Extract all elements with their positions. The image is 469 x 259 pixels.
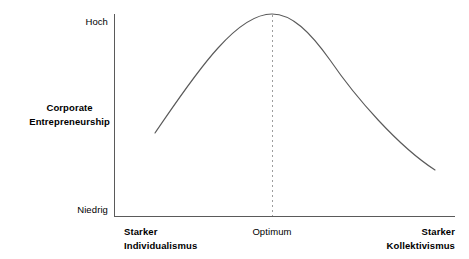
x-axis-label-left-line1: Starker: [124, 225, 197, 239]
y-axis-tick-low: Niedrig: [77, 203, 108, 217]
y-axis-title-line1: Corporate: [29, 101, 110, 115]
x-axis-label-optimum: Optimum: [239, 225, 305, 239]
performance-curve: [155, 14, 435, 170]
chart-container: Hoch Niedrig Corporate Entrepreneurship …: [0, 0, 469, 259]
y-axis-title: Corporate Entrepreneurship: [29, 101, 110, 129]
x-axis-label-right-line1: Starker: [387, 225, 455, 239]
x-axis-label-right: Starker Kollektivismus: [387, 225, 455, 253]
x-axis-label-right-line2: Kollektivismus: [387, 239, 455, 253]
y-axis-tick-high: Hoch: [85, 15, 108, 29]
chart-plot-area: [0, 0, 469, 259]
x-axis-label-left-line2: Individualismus: [124, 239, 197, 253]
y-axis-title-line2: Entrepreneurship: [29, 115, 110, 129]
x-axis-label-left: Starker Individualismus: [124, 225, 197, 253]
